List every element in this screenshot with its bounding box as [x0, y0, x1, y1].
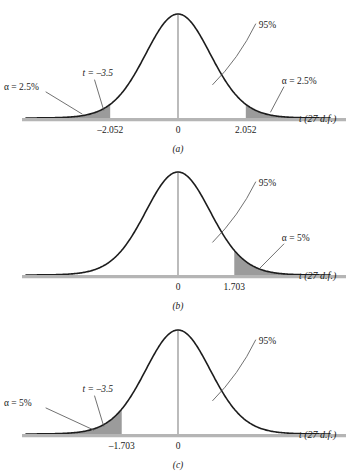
panel-c: 95% α = 5% t = –3.5 –1.703 0 t (27 d.f.)…: [0, 314, 359, 474]
panel-b-plot: 95% α = 5% 0 1.703 t (27 d.f.) (b): [0, 158, 359, 314]
confidence-leader-line: [213, 182, 256, 242]
tick-label-positive-critical: 2.052: [235, 125, 257, 135]
confidence-label: 95%: [259, 178, 277, 188]
confidence-label: 95%: [259, 20, 277, 30]
alpha-right-label: α = 5%: [282, 233, 310, 243]
panel-caption: (a): [172, 144, 183, 155]
x-axis-label: t (27 d.f.): [299, 429, 337, 441]
tick-label-negative-critical: –1.703: [108, 441, 135, 451]
alpha-left-leader-line: [46, 92, 82, 114]
alpha-left-label: α = 2.5%: [4, 82, 39, 92]
confidence-leader-line: [213, 340, 256, 401]
tick-label-positive-critical: 1.703: [224, 282, 246, 292]
t-statistic-leader-line: [95, 80, 104, 110]
x-axis-label: t (27 d.f.): [299, 270, 337, 282]
t-statistic-label: t = –3.5: [83, 384, 114, 394]
confidence-leader-line: [213, 24, 256, 85]
x-axis-label: t (27 d.f.): [299, 113, 337, 125]
panel-a: 95% α = 2.5% α = 2.5% t = –3.5 –2.052 0 …: [0, 0, 359, 158]
alpha-right-leader-line: [259, 244, 284, 269]
tick-label-zero: 0: [176, 441, 181, 451]
t-statistic-label: t = –3.5: [83, 68, 114, 78]
alpha-right-leader-line: [271, 87, 284, 112]
tick-label-zero: 0: [176, 282, 181, 292]
alpha-left-label: α = 5%: [4, 398, 32, 408]
panel-c-plot: 95% α = 5% t = –3.5 –1.703 0 t (27 d.f.)…: [0, 314, 359, 474]
panel-a-plot: 95% α = 2.5% α = 2.5% t = –3.5 –2.052 0 …: [0, 0, 359, 158]
panel-caption: (c): [173, 460, 184, 471]
tick-label-zero: 0: [176, 125, 181, 135]
confidence-label: 95%: [259, 336, 277, 346]
t-distribution-figure: 95% α = 2.5% α = 2.5% t = –3.5 –2.052 0 …: [0, 0, 359, 474]
panel-b: 95% α = 5% 0 1.703 t (27 d.f.) (b): [0, 158, 359, 314]
alpha-left-leader-line: [46, 408, 94, 430]
alpha-right-label: α = 2.5%: [282, 76, 317, 86]
tick-label-negative-critical: –2.052: [96, 125, 123, 135]
t-statistic-leader-line: [95, 396, 104, 426]
panel-caption: (b): [172, 301, 183, 312]
